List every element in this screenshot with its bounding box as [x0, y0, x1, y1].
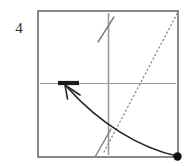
dotted-diagonal-line [104, 12, 178, 152]
trajectory-curve [67, 87, 177, 156]
figure-root: 4 [0, 0, 192, 166]
dashed-mark-upper [98, 17, 114, 42]
phase-plane-diagram [0, 0, 192, 166]
initial-condition-dot [173, 152, 181, 160]
